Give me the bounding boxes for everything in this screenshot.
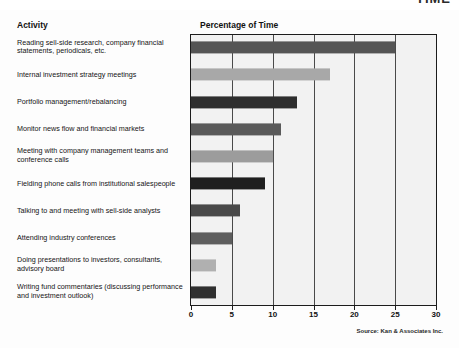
bar-track bbox=[191, 88, 436, 115]
chart-row: Writing fund commentaries (discussing pe… bbox=[0, 279, 459, 306]
chart-row: Talking to and meeting with sell-side an… bbox=[0, 197, 459, 224]
chart-row: Portfolio management/rebalancing bbox=[0, 88, 459, 115]
axis-tick-label: 5 bbox=[230, 310, 234, 319]
activity-label: Meeting with company management teams an… bbox=[17, 148, 185, 165]
axis-tick-label: 30 bbox=[432, 310, 441, 319]
chart-row: Doing presentations to investors, consul… bbox=[0, 252, 459, 279]
bar-rows-container: Reading sell-side research, company fina… bbox=[0, 34, 459, 306]
bar-track bbox=[191, 143, 436, 170]
chart-row: Internal investment strategy meetings bbox=[0, 61, 459, 88]
chart-row: Reading sell-side research, company fina… bbox=[0, 34, 459, 61]
bar bbox=[191, 42, 395, 54]
activity-label: Writing fund commentaries (discussing pe… bbox=[17, 284, 185, 301]
bar-track bbox=[191, 34, 436, 61]
bar-track bbox=[191, 170, 436, 197]
bar bbox=[191, 205, 240, 217]
activity-label: Monitor news flow and financial markets bbox=[17, 125, 185, 134]
bar-track bbox=[191, 252, 436, 279]
chart-row: Fielding phone calls from institutional … bbox=[0, 170, 459, 197]
bar-track bbox=[191, 61, 436, 88]
bar bbox=[191, 232, 232, 244]
chart-row: Monitor news flow and financial markets bbox=[0, 116, 459, 143]
bar bbox=[191, 286, 216, 298]
chart-figure: Activity Percentage of Time Reading sell… bbox=[0, 10, 459, 348]
activity-label: Internal investment strategy meetings bbox=[17, 70, 185, 79]
axis-tick-label: 0 bbox=[189, 310, 193, 319]
bar bbox=[191, 96, 297, 108]
activity-label: Reading sell-side research, company fina… bbox=[17, 39, 185, 56]
bar bbox=[191, 178, 265, 190]
axis-tick-label: 20 bbox=[350, 310, 359, 319]
activity-label: Fielding phone calls from institutional … bbox=[17, 179, 185, 188]
cut-off-title-text: TIME bbox=[416, 0, 451, 6]
axis-tick-label: 15 bbox=[309, 310, 318, 319]
activity-label: Attending industry conferences bbox=[17, 234, 185, 243]
bar-track bbox=[191, 116, 436, 143]
bar-track bbox=[191, 224, 436, 251]
activity-label: Talking to and meeting with sell-side an… bbox=[17, 206, 185, 215]
chart-row: Attending industry conferences bbox=[0, 224, 459, 251]
column-header-activity: Activity bbox=[17, 20, 48, 30]
cut-off-title-strip: TIME bbox=[0, 0, 459, 10]
bar bbox=[191, 69, 330, 81]
activity-label: Portfolio management/rebalancing bbox=[17, 98, 185, 107]
activity-label: Doing presentations to investors, consul… bbox=[17, 257, 185, 274]
source-note: Source: Kan & Associates Inc. bbox=[357, 328, 443, 334]
bar bbox=[191, 123, 281, 135]
bar bbox=[191, 150, 273, 162]
chart-row: Meeting with company management teams an… bbox=[0, 143, 459, 170]
bar-track bbox=[191, 279, 436, 306]
column-header-percentage: Percentage of Time bbox=[200, 20, 278, 30]
axis-tick-label: 10 bbox=[268, 310, 277, 319]
x-axis: 051015202530 bbox=[190, 306, 437, 326]
bar bbox=[191, 259, 216, 271]
axis-tick-label: 25 bbox=[391, 310, 400, 319]
bar-track bbox=[191, 197, 436, 224]
